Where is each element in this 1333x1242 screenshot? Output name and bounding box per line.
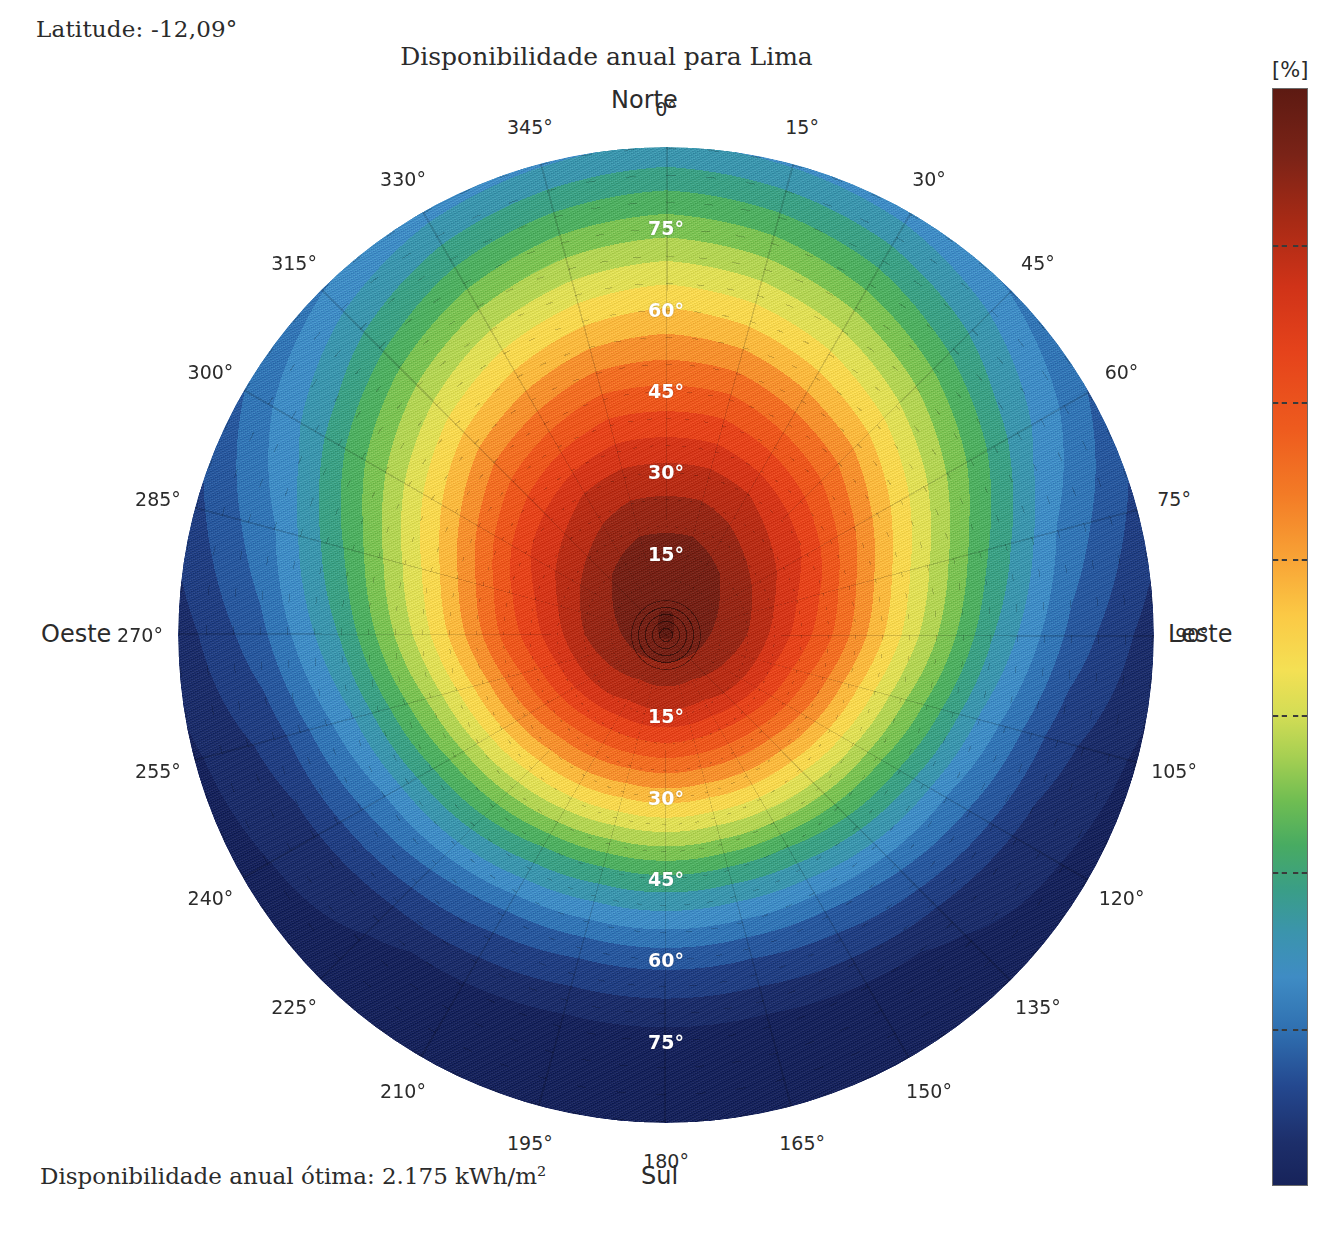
- elevation-ring-north-60: 60°: [648, 299, 684, 321]
- elevation-ring-south-45: 45°: [648, 868, 684, 890]
- azimuth-tick-210: 210°: [380, 1080, 426, 1102]
- azimuth-tick-135: 135°: [1015, 996, 1061, 1018]
- azimuth-tick-0: 0°: [655, 98, 677, 120]
- colorbar-tick-mark-90: [1293, 245, 1307, 247]
- azimuth-tick-240: 240°: [188, 887, 234, 909]
- colorbar-tick-mark-90: [1273, 245, 1287, 247]
- colorbar-tick-mark-80: [1273, 402, 1287, 404]
- page-title: Disponibilidade anual para Lima: [0, 42, 1333, 71]
- azimuth-tick-300: 300°: [188, 361, 234, 383]
- elevation-ring-north-15: 15°: [648, 543, 684, 565]
- colorbar[interactable]: [1272, 88, 1308, 1186]
- colorbar-tick-mark-50: [1293, 872, 1307, 874]
- colorbar-tick-mark-40: [1293, 1029, 1307, 1031]
- colorbar-tick-mark-40: [1273, 1029, 1287, 1031]
- azimuth-tick-30: 30°: [912, 168, 946, 190]
- elevation-ring-north-45: 45°: [648, 380, 684, 402]
- azimuth-tick-15: 15°: [785, 116, 819, 138]
- azimuth-tick-345: 345°: [507, 116, 553, 138]
- elevation-ring-south-30: 30°: [648, 787, 684, 809]
- colorbar-tick-mark-70: [1273, 559, 1287, 561]
- polar-plot[interactable]: 0°15°30°45°60°75°90°105°120°135°150°165°…: [178, 147, 1154, 1123]
- azimuth-tick-60: 60°: [1105, 361, 1139, 383]
- colorbar-tick-mark-50: [1273, 872, 1287, 874]
- azimuth-tick-330: 330°: [380, 168, 426, 190]
- colorbar-unit-label: [%]: [1272, 58, 1308, 82]
- polar-heatmap-disc: [178, 147, 1154, 1123]
- elevation-ring-south-15: 15°: [648, 705, 684, 727]
- availability-heatmap-canvas: [178, 147, 1154, 1123]
- colorbar-tick-mark-70: [1293, 559, 1307, 561]
- solar-availability-figure: Latitude: -12,09° Disponibilidade anual …: [0, 0, 1333, 1242]
- azimuth-tick-180: 180°: [643, 1150, 689, 1172]
- azimuth-tick-315: 315°: [271, 252, 317, 274]
- colorbar-tick-mark-80: [1293, 402, 1307, 404]
- optimal-availability-label: Disponibilidade anual ótima: 2.175 kWh/m…: [40, 1163, 546, 1189]
- azimuth-tick-165: 165°: [779, 1132, 825, 1154]
- elevation-ring-north-30: 30°: [648, 461, 684, 483]
- azimuth-tick-75: 75°: [1157, 488, 1191, 510]
- azimuth-tick-90: 90°: [1175, 624, 1209, 646]
- azimuth-tick-255: 255°: [135, 760, 181, 782]
- latitude-label: Latitude: -12,09°: [36, 16, 238, 42]
- azimuth-tick-120: 120°: [1099, 887, 1145, 909]
- azimuth-tick-45: 45°: [1021, 252, 1055, 274]
- colorbar-tick-mark-60: [1293, 715, 1307, 717]
- azimuth-tick-150: 150°: [906, 1080, 952, 1102]
- azimuth-tick-195: 195°: [507, 1132, 553, 1154]
- elevation-ring-north-75: 75°: [648, 217, 684, 239]
- azimuth-tick-285: 285°: [135, 488, 181, 510]
- elevation-ring-south-60: 60°: [648, 949, 684, 971]
- cardinal-west: Oeste: [41, 620, 111, 648]
- elevation-ring-south-75: 75°: [648, 1031, 684, 1053]
- azimuth-tick-270: 270°: [117, 624, 163, 646]
- optimal-availability-text: Disponibilidade anual ótima: 2.175 kWh/m…: [40, 1163, 546, 1189]
- azimuth-tick-225: 225°: [271, 996, 317, 1018]
- azimuth-tick-105: 105°: [1151, 760, 1197, 782]
- colorbar-tick-mark-60: [1273, 715, 1287, 717]
